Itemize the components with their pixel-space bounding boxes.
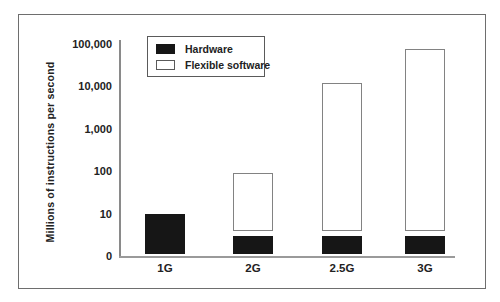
bar-hardware-2G xyxy=(233,236,273,254)
hardware-swatch xyxy=(156,44,175,54)
bar-hardware-1G xyxy=(145,214,185,255)
y-axis-tick-label: 10 xyxy=(56,207,112,221)
legend-label-flexible-software: Flexible software xyxy=(185,59,270,71)
y-axis-tick-label: 100 xyxy=(56,164,112,178)
x-axis-category-label: 2.5G xyxy=(312,262,372,274)
y-axis-tick-label: 0 xyxy=(56,249,112,263)
x-axis-category-label: 3G xyxy=(395,262,455,274)
bar-flexible-software-2.5G xyxy=(322,83,362,231)
y-axis-tick-label: 1,000 xyxy=(56,122,112,136)
bar-flexible-software-3G xyxy=(405,49,445,231)
x-axis-line xyxy=(119,256,455,258)
bar-chart-figure: Millions of instructions per second 100,… xyxy=(0,0,500,302)
legend-item-hardware: Hardware xyxy=(156,43,264,55)
y-axis-line xyxy=(119,40,121,257)
x-axis-category-label: 1G xyxy=(135,262,195,274)
y-axis-tick-label: 10,000 xyxy=(56,79,112,93)
flexible-software-swatch xyxy=(156,60,175,70)
y-axis-tick-label: 100,000 xyxy=(56,37,112,51)
bar-flexible-software-2G xyxy=(233,173,273,231)
bar-hardware-2.5G xyxy=(322,236,362,254)
x-axis-category-label: 2G xyxy=(223,262,283,274)
legend-label-hardware: Hardware xyxy=(185,43,233,55)
y-axis-title: Millions of instructions per second xyxy=(44,62,56,243)
legend: Hardware Flexible software xyxy=(147,36,265,77)
legend-item-flexible-software: Flexible software xyxy=(156,59,264,71)
bar-hardware-3G xyxy=(405,236,445,254)
